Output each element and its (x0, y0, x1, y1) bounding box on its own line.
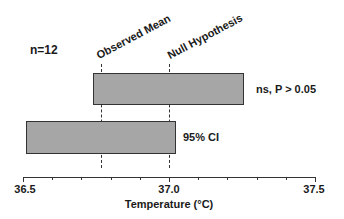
x-minor-tick (227, 177, 228, 180)
x-minor-tick (286, 177, 287, 180)
x-tick (169, 177, 170, 182)
x-minor-tick (81, 177, 82, 180)
x-tick-label: 37.5 (303, 183, 324, 195)
interval-bar-bottom (26, 121, 176, 154)
x-tick (23, 177, 24, 182)
interval-label-bottom: 95% CI (183, 131, 219, 143)
x-minor-tick (198, 177, 199, 180)
x-minor-tick (257, 177, 258, 180)
x-minor-tick (111, 177, 112, 180)
x-tick (315, 177, 316, 182)
x-minor-tick (140, 177, 141, 180)
observed-mean-label: Observed Mean (94, 12, 172, 61)
x-axis-title: Temperature (°C) (125, 198, 214, 210)
sample-size-label: n=12 (30, 43, 58, 57)
interval-bar-top (93, 73, 244, 105)
x-minor-tick (52, 177, 53, 180)
interval-label-top: ns, P > 0.05 (256, 83, 316, 95)
x-tick-label: 37.0 (158, 183, 179, 195)
x-tick-label: 36.5 (14, 183, 35, 195)
null-hypothesis-label: Null Hypothesis (165, 11, 244, 61)
